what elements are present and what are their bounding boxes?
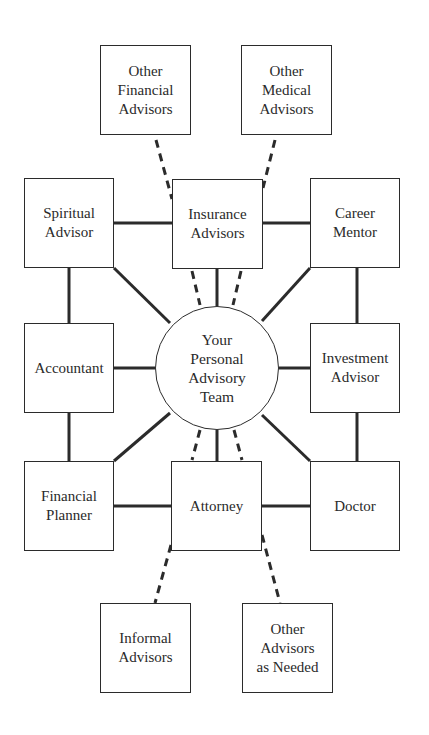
node-label: Career Mentor	[333, 204, 377, 242]
spoke-career	[262, 268, 310, 321]
dashed-attorney-informal	[155, 545, 171, 603]
spoke-spiritual	[114, 268, 170, 323]
node-label: Financial Planner	[41, 487, 97, 525]
spoke-doctor	[262, 415, 310, 461]
node-label: Spiritual Advisor	[43, 204, 95, 242]
node-label: Other Advisors as Needed	[256, 620, 318, 677]
node-doctor: Doctor	[310, 461, 400, 551]
dashed-attorney-other-needed	[262, 535, 280, 603]
node-label: Insurance Advisors	[188, 205, 246, 243]
node-other-medical-advisors: Other Medical Advisors	[241, 45, 332, 135]
dashed-insurance-center-left	[192, 271, 200, 305]
node-other-advisors-as-needed: Other Advisors as Needed	[242, 603, 333, 693]
spoke-planner	[114, 413, 170, 461]
node-accountant: Accountant	[24, 323, 114, 413]
node-insurance-advisors: Insurance Advisors	[172, 179, 263, 269]
node-label: Doctor	[334, 497, 376, 516]
node-financial-planner: Financial Planner	[24, 461, 114, 551]
center-personal-advisory-team: Your Personal Advisory Team	[155, 306, 279, 430]
dashed-center-attorney-left	[192, 430, 200, 460]
dashed-center-attorney-right	[234, 430, 242, 460]
node-label: Attorney	[190, 497, 243, 516]
node-label: Investment Advisor	[322, 349, 389, 387]
dashed-other-medical-insurance	[263, 140, 275, 188]
center-label: Your Personal Advisory Team	[188, 330, 246, 406]
node-label: Accountant	[34, 359, 103, 378]
dashed-other-financial-insurance	[156, 140, 172, 199]
node-label: Other Financial Advisors	[118, 62, 174, 119]
node-attorney: Attorney	[171, 461, 262, 551]
node-label: Informal Advisors	[118, 629, 172, 667]
node-spiritual-advisor: Spiritual Advisor	[24, 178, 114, 268]
node-informal-advisors: Informal Advisors	[100, 603, 191, 693]
node-investment-advisor: Investment Advisor	[310, 323, 400, 413]
dashed-insurance-center-right	[233, 271, 241, 305]
node-label: Other Medical Advisors	[259, 62, 313, 119]
node-career-mentor: Career Mentor	[310, 178, 400, 268]
node-other-financial-advisors: Other Financial Advisors	[100, 45, 191, 135]
